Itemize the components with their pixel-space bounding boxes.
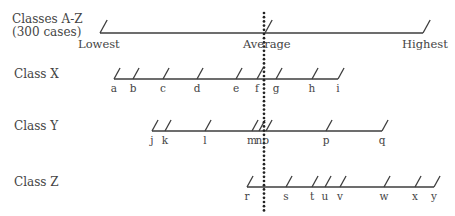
case-label-y: y (431, 190, 437, 202)
case-label-v: v (337, 190, 343, 202)
case-tick-p (326, 120, 332, 131)
case-label-a: a (111, 82, 117, 94)
case-tick-i (338, 68, 344, 79)
case-tick-c (163, 68, 169, 79)
case-label-r: r (244, 190, 249, 202)
case-label-w: w (380, 190, 389, 202)
case-tick-a (114, 68, 120, 79)
class-y-label: Class Y (14, 120, 58, 133)
case-label-q: q (379, 134, 386, 146)
case-label-b: b (130, 82, 137, 94)
case-label-s: s (283, 190, 288, 202)
case-tick-u (325, 176, 331, 187)
case-label-p: p (323, 134, 330, 146)
case-tick-h (312, 68, 318, 79)
case-tick-v (340, 176, 346, 187)
class-z-label: Class Z (14, 176, 59, 189)
case-label-i: i (336, 82, 339, 94)
case-tick-q (382, 120, 388, 131)
overall-tick (100, 20, 107, 33)
case-label-t: t (310, 190, 314, 202)
case-label-h: h (309, 82, 316, 94)
case-tick-x (415, 176, 421, 187)
case-tick-l (205, 120, 211, 131)
case-tick-g (276, 68, 282, 79)
case-label-x: x (412, 190, 418, 202)
case-label-j: j (150, 134, 153, 146)
case-tick-t (312, 176, 318, 187)
case-label-u: u (322, 190, 329, 202)
case-label-c: c (160, 82, 166, 94)
case-tick-e (236, 68, 242, 79)
case-tick-j (152, 120, 158, 131)
case-label-f: f (255, 82, 259, 94)
average-label: Average (243, 38, 291, 51)
class-x-label: Class X (14, 68, 59, 81)
overall-tick (423, 20, 430, 33)
case-label-d: d (194, 82, 201, 94)
case-tick-r (247, 176, 253, 187)
case-label-l: l (203, 134, 206, 146)
case-tick-k (165, 120, 171, 131)
case-label-g: g (273, 82, 280, 94)
case-tick-m (252, 120, 258, 131)
overall-tick (265, 20, 272, 33)
lowest-label: Lowest (78, 38, 120, 51)
case-tick-y (434, 176, 440, 187)
case-tick-o (266, 120, 272, 131)
case-label-e: e (233, 82, 239, 94)
overall-label: Classes A-Z (300 cases) (12, 13, 83, 39)
highest-label: Highest (402, 38, 448, 51)
case-label-n: n (256, 134, 263, 146)
case-tick-w (384, 176, 390, 187)
case-tick-f (257, 68, 263, 79)
case-label-k: k (162, 134, 168, 146)
case-tick-b (133, 68, 139, 79)
case-tick-s (286, 176, 292, 187)
overall-label-line2: (300 cases) (12, 26, 83, 39)
case-label-o: o (263, 134, 269, 146)
case-tick-d (197, 68, 203, 79)
